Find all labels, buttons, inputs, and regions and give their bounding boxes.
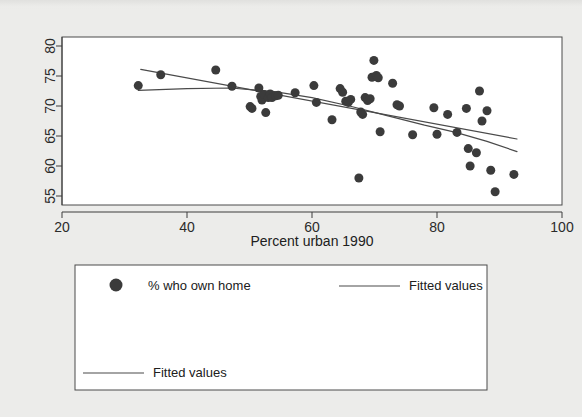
y-axis-tick-labels: 556065707580 bbox=[42, 38, 58, 204]
x-tick-label: 40 bbox=[179, 219, 195, 235]
scatter-point bbox=[274, 91, 283, 100]
x-axis-ticks bbox=[62, 212, 562, 218]
y-tick-label: 70 bbox=[42, 98, 58, 114]
scatter-point bbox=[134, 81, 143, 90]
scatter-point bbox=[486, 166, 495, 175]
scatter-point bbox=[466, 162, 475, 171]
legend-label-fitted-values-bottom: Fitted values bbox=[153, 365, 227, 380]
scatter-point bbox=[248, 104, 257, 113]
y-tick-label: 75 bbox=[42, 68, 58, 84]
scatter-point bbox=[376, 127, 385, 136]
legend-label-own-home: % who own home bbox=[148, 278, 251, 293]
scatter-point bbox=[388, 79, 397, 88]
scatter-point bbox=[312, 98, 321, 107]
y-tick-label: 55 bbox=[42, 188, 58, 204]
scatter-point bbox=[156, 70, 165, 79]
scatter-point bbox=[472, 148, 481, 157]
scatter-point bbox=[354, 174, 363, 183]
y-tick-label: 65 bbox=[42, 128, 58, 144]
scatter-point bbox=[366, 94, 375, 103]
scatter-point bbox=[509, 170, 518, 179]
x-tick-label: 100 bbox=[550, 219, 574, 235]
scatter-point bbox=[478, 117, 487, 126]
figure-page: 556065707580 20406080100 Percent urban 1… bbox=[0, 0, 582, 417]
y-tick-label: 60 bbox=[42, 158, 58, 174]
scatter-point bbox=[346, 95, 355, 104]
scatter-point bbox=[369, 56, 378, 65]
scatter-point bbox=[408, 130, 417, 139]
scatter-point bbox=[483, 106, 492, 115]
x-tick-label: 80 bbox=[429, 219, 445, 235]
scatter-point bbox=[443, 110, 452, 119]
scatter-point bbox=[462, 104, 471, 113]
plot-panel bbox=[62, 37, 562, 205]
scatter-point bbox=[309, 81, 318, 90]
plot-canvas: 556065707580 20406080100 Percent urban 1… bbox=[0, 0, 582, 417]
scatter-point bbox=[228, 82, 237, 91]
scatter-point bbox=[328, 115, 337, 124]
scatter-point bbox=[453, 128, 462, 137]
x-axis-title: Percent urban 1990 bbox=[251, 233, 374, 249]
scatter-point bbox=[395, 102, 404, 111]
scatter-point bbox=[475, 87, 484, 96]
x-tick-label: 20 bbox=[54, 219, 70, 235]
scatter-point bbox=[464, 144, 473, 153]
legend-dot-marker bbox=[110, 279, 123, 292]
scatter-point bbox=[374, 73, 383, 82]
scatter-point bbox=[491, 187, 500, 196]
scatter-point bbox=[358, 110, 367, 119]
scatter-plot-figure: 556065707580 20406080100 Percent urban 1… bbox=[0, 0, 582, 417]
scatter-point bbox=[429, 103, 438, 112]
scatter-point bbox=[338, 88, 347, 97]
scatter-point bbox=[261, 108, 270, 117]
scatter-point bbox=[291, 88, 300, 97]
legend-label-fitted-values-right: Fitted values bbox=[409, 278, 483, 293]
y-tick-label: 80 bbox=[42, 38, 58, 54]
scatter-point bbox=[211, 66, 220, 75]
scatter-point bbox=[433, 130, 442, 139]
